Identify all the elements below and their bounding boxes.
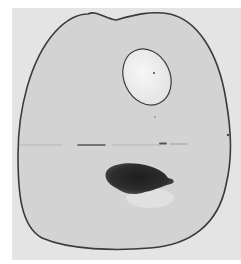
specimen-illustration: [0, 0, 241, 264]
specimen-outline: [18, 13, 231, 250]
edge-mark: [227, 134, 229, 136]
oval-dot: [153, 72, 155, 74]
small-dot: [154, 116, 156, 118]
photo-frame: [0, 0, 241, 264]
